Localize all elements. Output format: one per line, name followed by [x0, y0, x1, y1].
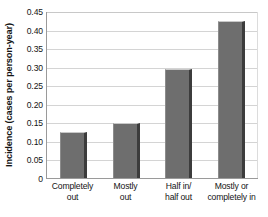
x-axis-tick-label-line: half out	[153, 192, 204, 203]
x-axis-tick-label-line: Half in/	[153, 181, 204, 192]
x-axis-tick-label-line: out	[100, 192, 151, 203]
y-axis-tick-label: 0.05	[27, 155, 43, 165]
y-axis-tick-label: 0.45	[27, 7, 43, 17]
y-axis-tick-label: 0.10	[27, 137, 43, 147]
x-axis-tick-label-line: completely in	[206, 192, 257, 203]
y-axis-tick-labels: 0.450.400.350.300.250.200.150.100.050	[17, 12, 45, 179]
bar[interactable]	[218, 21, 245, 178]
x-axis-tick-label: Half in/half out	[152, 181, 205, 217]
bar-slot	[205, 12, 258, 178]
x-axis-tick-labels: CompletelyoutMostlyoutHalf in/half outMo…	[46, 181, 258, 217]
y-axis-tick-label: 0	[38, 174, 43, 184]
plot-area	[46, 12, 258, 179]
y-axis-tick-label: 0.40	[27, 26, 43, 36]
x-axis-tick-label-line: Mostly or	[206, 181, 257, 192]
bar-slot	[47, 12, 100, 178]
y-axis-tick-label: 0.35	[27, 44, 43, 54]
bar[interactable]	[165, 69, 192, 178]
y-axis-tick-label: 0.15	[27, 118, 43, 128]
x-axis-tick-label: Completelyout	[46, 181, 99, 217]
y-axis-title-text: Incidence (cases per person-year)	[4, 23, 14, 167]
bar[interactable]	[113, 123, 140, 178]
x-axis-tick-label: Mostly orcompletely in	[205, 181, 258, 217]
y-axis-tick-label: 0.20	[27, 100, 43, 110]
bars-layer	[47, 12, 258, 178]
x-axis-tick-label-line: Completely	[47, 181, 98, 192]
bar[interactable]	[60, 132, 87, 178]
x-axis-tick-label: Mostlyout	[99, 181, 152, 217]
bar-slot	[100, 12, 153, 178]
x-axis-tick-label-line: Mostly	[100, 181, 151, 192]
bar-chart-figure: Incidence (cases per person-year) 0.450.…	[0, 0, 268, 217]
x-axis-tick-label-line: out	[47, 192, 98, 203]
y-axis-tick-label: 0.30	[27, 63, 43, 73]
y-axis-tick-label: 0.25	[27, 81, 43, 91]
y-axis-title: Incidence (cases per person-year)	[0, 0, 17, 190]
bar-slot	[153, 12, 206, 178]
